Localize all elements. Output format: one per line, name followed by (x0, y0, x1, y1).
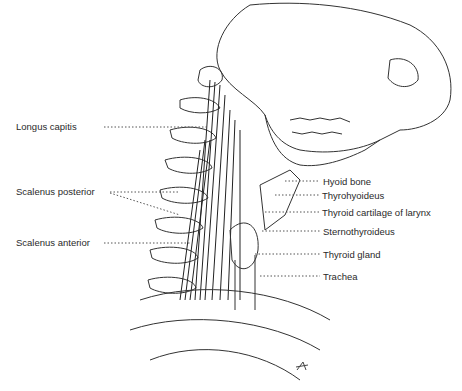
label-hyoid-bone: Hyoid bone (323, 176, 371, 187)
orbit (388, 59, 418, 87)
trachea (235, 255, 255, 310)
label-thyroid-cartilage: Thyroid cartilage of larynx (322, 207, 431, 218)
label-scalenus-posterior: Scalenus posterior (16, 186, 95, 197)
label-longus-capitis: Longus capitis (16, 121, 77, 132)
thyroid-cartilage (260, 170, 300, 230)
scalene-muscles (180, 80, 240, 300)
thyroid-gland (230, 223, 258, 269)
label-sternothyroideus: Sternothyroideus (323, 226, 395, 237)
skull (217, 3, 451, 152)
teeth (290, 118, 350, 134)
label-thyroid-gland: Thyroid gland (323, 249, 381, 260)
signature-monogram (296, 362, 308, 370)
label-scalenus-anterior: Scalenus anterior (16, 237, 90, 248)
label-trachea: Trachea (323, 271, 358, 282)
label-thyrohyoideus: Thyrohyoideus (322, 190, 384, 201)
mandible (265, 115, 380, 166)
